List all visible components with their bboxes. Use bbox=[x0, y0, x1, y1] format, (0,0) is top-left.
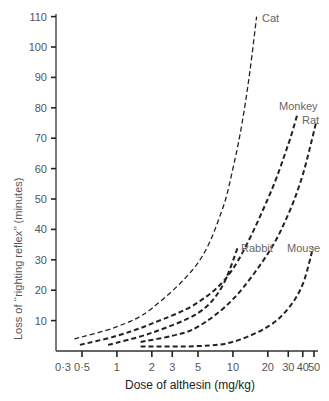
x-axis-title: Dose of althesin (mg/kg) bbox=[125, 378, 255, 392]
x-axis: 0·30·512351020304050 Dose of althesin (m… bbox=[55, 351, 320, 392]
curve-rabbit bbox=[108, 248, 238, 345]
y-axis-title: Loss of ‘‘righting reflex’’ (minutes) bbox=[12, 178, 24, 340]
label-rabbit: Rabbit bbox=[241, 242, 273, 254]
y-tick-label: 70 bbox=[35, 132, 47, 144]
y-tick-label: 50 bbox=[35, 193, 47, 205]
curve-cat bbox=[74, 17, 256, 339]
y-tick-label: 20 bbox=[35, 284, 47, 296]
label-monkey: Monkey bbox=[279, 100, 318, 112]
y-tick-label: 100 bbox=[29, 41, 47, 53]
x-ticks: 0·30·512351020304050 bbox=[55, 351, 320, 373]
y-tick-label: 30 bbox=[35, 254, 47, 266]
y-tick-label: 110 bbox=[29, 11, 47, 23]
dose-response-chart: 102030405060708090100110 Loss of ‘‘right… bbox=[0, 0, 329, 401]
y-tick-label: 80 bbox=[35, 102, 47, 114]
y-tick-label: 40 bbox=[35, 223, 47, 235]
curve-monkey bbox=[80, 114, 298, 345]
label-cat: Cat bbox=[262, 12, 279, 24]
curves bbox=[74, 17, 316, 347]
label-rat: Rat bbox=[302, 114, 319, 126]
y-ticks: 102030405060708090100110 bbox=[29, 11, 56, 327]
curve-rat bbox=[141, 123, 316, 342]
label-mouse: Mouse bbox=[287, 242, 320, 254]
x-tick-label: 0·3 bbox=[55, 361, 71, 373]
y-axis: 102030405060708090100110 Loss of ‘‘right… bbox=[12, 11, 56, 351]
x-tick-label: 30 bbox=[282, 361, 294, 373]
x-tick-label: 3 bbox=[169, 361, 175, 373]
x-tick-label: 10 bbox=[227, 361, 239, 373]
x-tick-label: 0·5 bbox=[74, 361, 90, 373]
curve-mouse bbox=[141, 248, 313, 347]
x-tick-label: 50 bbox=[308, 361, 320, 373]
x-tick-label: 5 bbox=[195, 361, 201, 373]
y-tick-label: 60 bbox=[35, 163, 47, 175]
x-tick-label: 20 bbox=[262, 361, 274, 373]
y-tick-label: 90 bbox=[35, 71, 47, 83]
y-tick-label: 10 bbox=[35, 315, 47, 327]
x-tick-label: 2 bbox=[149, 361, 155, 373]
x-tick-label: 1 bbox=[114, 361, 120, 373]
